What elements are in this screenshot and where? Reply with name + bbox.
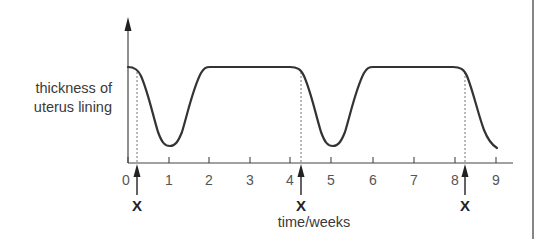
x-axis-ticks bbox=[128, 157, 496, 163]
tick-label-3: 3 bbox=[246, 172, 254, 188]
uterus-lining-chart: thickness of uterus lining 0 1 2 3 4 5 6… bbox=[0, 0, 539, 239]
arrow-up-icon bbox=[462, 164, 469, 177]
thickness-curve bbox=[128, 67, 497, 148]
tick-label-0: 0 bbox=[122, 172, 130, 188]
chart-canvas bbox=[0, 0, 539, 239]
marker-label-x3: X bbox=[460, 197, 470, 214]
marker-label-x2: X bbox=[296, 197, 306, 214]
arrow-up-icon bbox=[298, 164, 305, 177]
y-axis-arrow-icon bbox=[125, 17, 132, 31]
tick-label-9: 9 bbox=[492, 172, 500, 188]
marker-label-x1: X bbox=[132, 197, 142, 214]
y-axis-label-line1: thickness of bbox=[0, 79, 112, 98]
tick-label-6: 6 bbox=[369, 172, 377, 188]
tick-label-5: 5 bbox=[327, 172, 335, 188]
tick-label-2: 2 bbox=[205, 172, 213, 188]
arrow-up-icon bbox=[134, 164, 141, 177]
tick-label-4: 4 bbox=[286, 172, 294, 188]
tick-label-1: 1 bbox=[165, 172, 173, 188]
tick-label-8: 8 bbox=[451, 172, 459, 188]
tick-label-7: 7 bbox=[410, 172, 418, 188]
y-axis-label-line2: uterus lining bbox=[0, 98, 112, 117]
marker-arrows bbox=[134, 164, 469, 195]
x-axis-label: time/weeks bbox=[278, 214, 351, 230]
